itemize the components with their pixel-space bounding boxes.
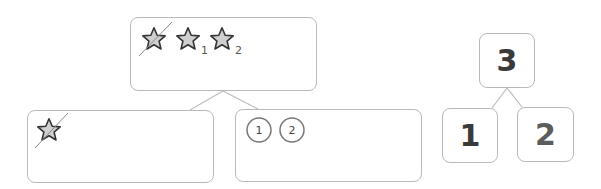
circle-token-2: 2 xyxy=(280,118,304,142)
cross-out-line xyxy=(139,22,172,56)
star-icon-crossed xyxy=(38,119,60,140)
svg-text:2: 2 xyxy=(289,124,296,137)
tree-connector xyxy=(190,91,258,110)
svg-text:1: 1 xyxy=(256,124,263,137)
star-icon xyxy=(211,28,233,49)
star-subscript-2: 2 xyxy=(235,44,242,57)
cross-out-line xyxy=(35,113,68,148)
star-icon-crossed xyxy=(143,28,165,49)
circle-token-1: 1 xyxy=(247,118,271,142)
number-bond-connector xyxy=(492,88,522,108)
star-icon xyxy=(177,28,199,49)
star-subscript-1: 1 xyxy=(201,44,208,57)
diagram-drawing: 1 2 1 2 xyxy=(0,0,601,189)
